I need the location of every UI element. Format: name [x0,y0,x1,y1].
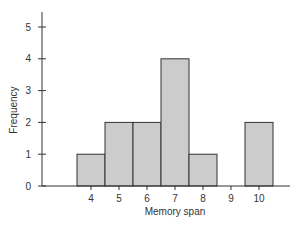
x-ticks: 45678910 [88,186,265,204]
bar-7 [161,59,189,186]
x-tick-label: 9 [228,193,234,204]
bars [77,59,273,186]
x-tick-label: 10 [253,193,265,204]
bar-4 [77,154,105,186]
bar-10 [245,122,273,186]
y-tick-label: 1 [25,149,31,160]
x-tick-label: 4 [88,193,94,204]
y-tick-label: 3 [25,85,31,96]
x-tick-label: 6 [144,193,150,204]
y-axis-title: Frequency [8,86,19,133]
y-tick-label: 0 [25,181,31,192]
x-tick-label: 8 [200,193,206,204]
y-tick-label: 2 [25,117,31,128]
y-ticks: 012345 [25,22,46,192]
x-tick-label: 5 [116,193,122,204]
x-tick-label: 7 [172,193,178,204]
histogram-chart: 012345 45678910 Memory span Frequency [0,0,300,230]
y-tick-label: 5 [25,22,31,33]
bar-8 [189,154,217,186]
x-axis-title: Memory span [145,206,206,217]
bar-5 [105,122,133,186]
bar-6 [133,122,161,186]
y-tick-label: 4 [25,53,31,64]
